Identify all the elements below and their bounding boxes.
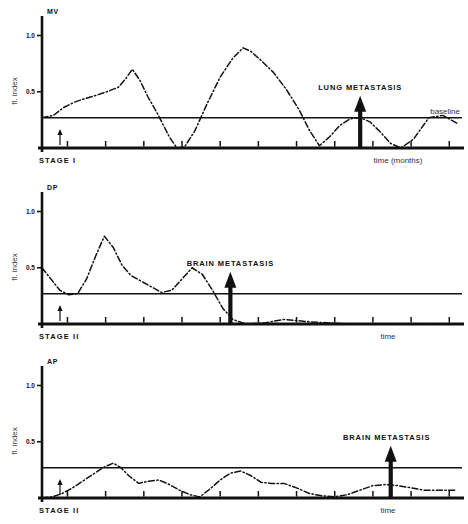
- chart-panel-mv: 0.51.0MVfl. indexSTAGE Itime (months)bas…: [0, 0, 468, 175]
- panel-title: DP: [47, 184, 58, 191]
- y-tick-label: 1.0: [26, 208, 35, 215]
- metastasis-annotation: LUNG METASTASIS: [318, 83, 402, 92]
- y-tick-label: 1.0: [26, 382, 35, 389]
- y-axis-label: fl. index: [10, 77, 19, 105]
- stage-label: STAGE II: [39, 332, 79, 341]
- stage-start-arrowhead: [57, 305, 62, 311]
- stage-label: STAGE II: [39, 506, 79, 515]
- metastasis-arrow-head: [385, 446, 397, 462]
- y-tick-label: 0.5: [26, 438, 35, 445]
- x-axis-label: time: [380, 506, 396, 515]
- chart-panel-dp: 0.51.0DPfl. indexSTAGE IItimeBRAIN METAS…: [0, 176, 468, 351]
- y-axis-label: fl. index: [10, 427, 19, 455]
- chart-svg-mv: 0.51.0MVfl. indexSTAGE Itime (months)bas…: [0, 0, 468, 175]
- metastasis-annotation: BRAIN METASTASIS: [187, 259, 274, 268]
- stage-start-arrowhead: [57, 479, 62, 485]
- stage-label: STAGE I: [39, 156, 76, 165]
- metastasis-annotation: BRAIN METASTASIS: [343, 433, 430, 442]
- y-tick-label: 1.0: [26, 32, 35, 39]
- data-series-line: [42, 48, 457, 148]
- metastasis-arrow-head: [224, 272, 236, 288]
- chart-svg-dp: 0.51.0DPfl. indexSTAGE IItimeBRAIN METAS…: [0, 176, 468, 351]
- panel-title: AP: [47, 358, 58, 365]
- stage-start-arrowhead: [57, 129, 62, 135]
- data-series-line: [42, 236, 457, 324]
- y-tick-label: 0.5: [26, 88, 35, 95]
- y-axis-label: fl. index: [10, 253, 19, 281]
- x-axis-label: time: [380, 332, 396, 341]
- chart-svg-ap: 0.51.0APfl. indexSTAGE IItimeBRAIN METAS…: [0, 350, 468, 524]
- metastasis-arrow-head: [354, 96, 366, 112]
- chart-panel-ap: 0.51.0APfl. indexSTAGE IItimeBRAIN METAS…: [0, 350, 468, 524]
- y-tick-label: 0.5: [26, 264, 35, 271]
- baseline-label: baseline: [430, 107, 460, 116]
- x-axis-label: time (months): [374, 156, 423, 165]
- panel-title: MV: [47, 8, 59, 15]
